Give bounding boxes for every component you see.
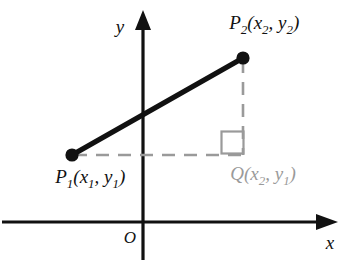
x-axis-label: x bbox=[325, 232, 335, 253]
right-angle-mark-icon bbox=[222, 132, 244, 154]
q-close-paren: ) bbox=[289, 163, 296, 185]
figure-container: y x O P2(x2, y2) P1(x1, y1) Q(x2, y1) bbox=[0, 0, 343, 264]
q-base: Q bbox=[230, 163, 244, 184]
point-p2-dot bbox=[236, 51, 249, 64]
origin-label: O bbox=[124, 228, 136, 247]
coordinate-plane-diagram: y x O P2(x2, y2) P1(x1, y1) Q(x2, y1) bbox=[0, 0, 343, 264]
y-axis-arrowhead-icon bbox=[135, 10, 151, 30]
y-axis-label: y bbox=[114, 16, 125, 37]
segment-p1-p2 bbox=[72, 58, 243, 155]
q-comma: , bbox=[265, 163, 275, 184]
q-y-var: y bbox=[273, 163, 284, 184]
point-p2-label: P2(x2, y2) bbox=[196, 12, 323, 37]
p1-close-paren: ) bbox=[118, 166, 125, 188]
p1-base: P bbox=[54, 166, 67, 187]
p2-base: P bbox=[228, 12, 241, 33]
p1-comma: , bbox=[95, 166, 105, 187]
p2-comma: , bbox=[269, 12, 279, 33]
point-p1-dot bbox=[65, 148, 78, 161]
p2-y-var: y bbox=[276, 12, 287, 33]
point-q-label: Q(x2, y1) bbox=[197, 163, 320, 188]
p1-y-var: y bbox=[102, 166, 113, 187]
x-axis-arrowhead-icon bbox=[316, 214, 338, 230]
p2-close-paren: ) bbox=[292, 12, 299, 34]
point-p1-label: P1(x1, y1) bbox=[22, 166, 149, 191]
